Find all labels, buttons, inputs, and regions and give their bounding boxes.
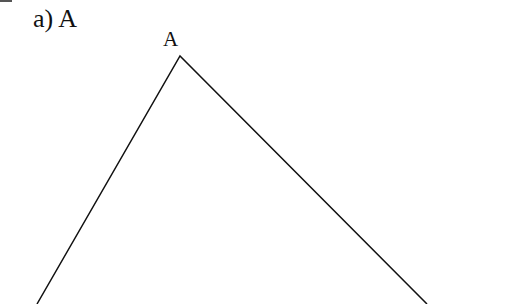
triangle-sides [37, 56, 427, 304]
triangle-diagram [0, 0, 506, 304]
